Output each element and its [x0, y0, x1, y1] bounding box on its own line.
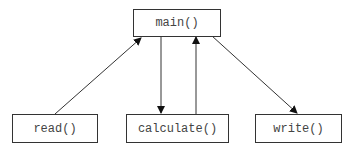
node-read: read() [12, 114, 98, 143]
node-main: main() [133, 9, 221, 37]
node-write-label: write() [273, 122, 323, 136]
node-read-label: read() [33, 122, 76, 136]
node-main-label: main() [155, 16, 198, 30]
node-calculate-label: calculate() [138, 122, 217, 136]
node-write: write() [255, 114, 342, 143]
edge-main-to-write [212, 36, 297, 113]
edge-read-to-main [55, 38, 141, 114]
node-calculate: calculate() [126, 114, 229, 143]
